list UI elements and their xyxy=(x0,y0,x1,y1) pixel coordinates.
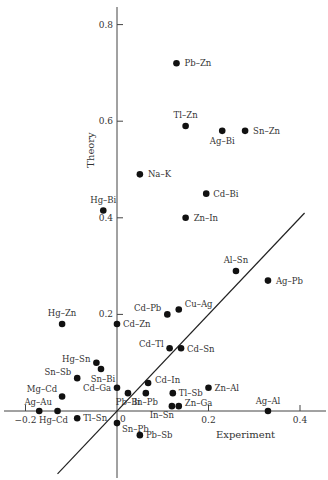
point-marker xyxy=(170,390,177,397)
point-label: Tl–Zn xyxy=(174,110,199,120)
data-point: Ag–Bi xyxy=(209,128,235,146)
point-marker xyxy=(242,128,249,135)
x-tick-label: 0.4 xyxy=(293,415,308,425)
y-tick-label: 0.4 xyxy=(99,213,114,223)
point-marker xyxy=(54,408,61,415)
data-point: Cd–Tl xyxy=(139,339,173,351)
point-marker xyxy=(166,345,173,352)
data-point: Cd–Ga xyxy=(83,383,120,393)
point-marker xyxy=(182,215,189,222)
data-point: Sn–Zn xyxy=(242,126,281,136)
data-point: Tl–Sb xyxy=(170,388,204,398)
point-marker xyxy=(143,390,150,397)
x-tick-label: −0.2 xyxy=(15,415,37,425)
point-label: Tl–Sn xyxy=(83,413,107,423)
x-tick-label: 0.2 xyxy=(201,415,215,425)
data-point: In–Pb xyxy=(134,390,159,407)
point-label: Cd–Ga xyxy=(83,383,111,393)
point-marker xyxy=(125,390,132,397)
data-point: Sn–Bi xyxy=(91,366,116,384)
point-label: Cu–Ag xyxy=(185,299,213,309)
point-label: Zn–In xyxy=(194,213,219,223)
scatter-chart: −0.20.20.40.20.40.60.8 Pb–ZnTl–ZnAg–BiSn… xyxy=(0,0,328,480)
data-point: Cd–Zn xyxy=(114,319,151,329)
point-marker xyxy=(175,403,182,410)
point-marker xyxy=(178,345,185,352)
point-marker xyxy=(114,321,121,328)
axes xyxy=(4,7,326,478)
point-label: Zn–Ga xyxy=(185,398,213,408)
point-label: Cd–In xyxy=(155,375,181,385)
point-label: Cd–Bi xyxy=(213,189,238,199)
point-label: Hg–Bi xyxy=(90,195,116,205)
point-marker xyxy=(74,375,81,382)
point-marker xyxy=(98,366,105,373)
point-marker xyxy=(137,432,144,439)
point-marker xyxy=(173,60,180,67)
point-label: Pb–Zn xyxy=(184,58,211,68)
point-marker xyxy=(203,190,210,197)
data-point: Zn–In xyxy=(182,213,218,223)
y-tick-label: 0.8 xyxy=(99,20,114,30)
point-label: Sn–Zn xyxy=(253,126,280,136)
point-marker xyxy=(265,408,272,415)
point-label: Cd–Pb xyxy=(134,303,162,313)
point-label: Mg–Cd xyxy=(27,384,58,394)
data-point: Ag–Al xyxy=(255,396,281,414)
x-axis-title: Experiment xyxy=(216,429,275,440)
data-point: Hg–Cd xyxy=(39,408,69,425)
data-point: Al–Sn xyxy=(223,255,249,274)
point-marker xyxy=(114,385,121,392)
y-axis-title: Theory xyxy=(85,132,96,168)
data-point: Ag–Au xyxy=(23,397,52,414)
point-marker xyxy=(74,415,81,422)
y-tick-label: 0.6 xyxy=(99,116,114,126)
data-point: Hg–Sn xyxy=(62,354,100,366)
data-point: Cu–Ag xyxy=(175,299,213,313)
point-label: Zn–Al xyxy=(215,383,240,393)
point-label: Cd–Zn xyxy=(123,319,151,329)
data-point: Zn–Al xyxy=(205,383,239,393)
point-label: Cd–Sn xyxy=(187,344,215,354)
point-marker xyxy=(59,393,66,400)
data-point: Sn–Sb xyxy=(44,367,80,381)
data-point: Tl–Zn xyxy=(174,110,199,129)
point-label: Tl–Sb xyxy=(179,388,203,398)
point-marker xyxy=(93,359,100,366)
point-marker xyxy=(233,268,240,275)
origin-label: 0 xyxy=(120,414,126,424)
point-label: Ag–Bi xyxy=(209,136,235,146)
point-marker xyxy=(100,207,107,214)
point-label: Cd–Tl xyxy=(139,339,164,349)
data-point: Tl–Sn xyxy=(74,413,108,423)
point-marker xyxy=(36,408,43,415)
point-marker xyxy=(175,306,182,313)
data-point: Cd–Pb xyxy=(134,303,171,317)
point-label: Hg–Cd xyxy=(39,415,69,425)
point-marker xyxy=(137,171,144,178)
y-tick-label: 0.2 xyxy=(99,309,113,319)
point-marker xyxy=(219,128,226,135)
point-label: Pb–Sb xyxy=(146,430,173,440)
data-point: Hg–Bi xyxy=(90,195,116,214)
point-label: Hg–Sn xyxy=(62,354,91,364)
point-label: Sn–Sb xyxy=(44,367,71,377)
data-point: Zn–Ga xyxy=(175,398,212,409)
data-point: Ag–Pb xyxy=(265,276,304,286)
data-points: Pb–ZnTl–ZnAg–BiSn–ZnNa–KCd–BiZn–InHg–BiA… xyxy=(23,58,303,440)
point-marker xyxy=(145,380,152,387)
point-label: In–Sn xyxy=(150,410,175,420)
point-label: Ag–Au xyxy=(23,397,52,407)
point-marker xyxy=(59,321,66,328)
data-point: Hg–Zn xyxy=(48,308,77,327)
point-marker xyxy=(164,311,171,318)
data-point: Cd–Bi xyxy=(203,189,239,199)
point-label: Al–Sn xyxy=(223,255,249,265)
point-label: Ag–Pb xyxy=(275,276,304,286)
point-label: Na–K xyxy=(148,169,172,179)
point-marker xyxy=(205,385,212,392)
point-marker xyxy=(265,277,272,284)
data-point: Cd–Sn xyxy=(178,344,215,354)
point-label: In–Pb xyxy=(134,397,159,407)
point-label: Hg–Zn xyxy=(48,308,77,318)
